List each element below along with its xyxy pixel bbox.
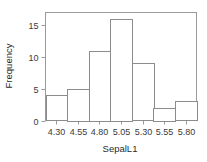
- histogram-bar: [133, 64, 155, 121]
- y-tick-label: 10: [28, 53, 38, 63]
- x-tick-label: 4.55: [70, 127, 88, 137]
- histogram-bar: [47, 96, 69, 121]
- x-tick-label: 4.30: [48, 127, 66, 137]
- histogram-bar: [90, 52, 112, 122]
- histogram-bar: [68, 90, 90, 122]
- histogram-bar: [111, 20, 133, 122]
- y-tick-label: 15: [28, 21, 38, 31]
- x-tick-label: 5.55: [156, 127, 174, 137]
- x-tick-label: 5.30: [135, 127, 153, 137]
- y-tick-label: 5: [33, 85, 38, 95]
- histogram-bar: [154, 109, 176, 122]
- histogram-bar: [176, 102, 198, 121]
- chart-canvas: 051015 4.304.554.805.055.305.555.80 Sepa…: [0, 0, 207, 162]
- x-tick-label: 4.80: [91, 127, 109, 137]
- y-tick-label: 0: [33, 117, 38, 127]
- x-axis-title: SepalL1: [103, 143, 138, 154]
- y-axis-title: Frequency: [3, 43, 14, 88]
- histogram-chart: 051015 4.304.554.805.055.305.555.80 Sepa…: [0, 0, 207, 162]
- x-tick-label: 5.80: [178, 127, 196, 137]
- x-tick-label: 5.05: [113, 127, 131, 137]
